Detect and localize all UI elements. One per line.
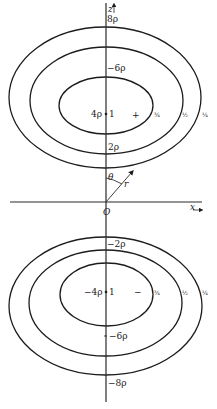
origin-label: O — [103, 207, 111, 217]
upper-lobe — [9, 27, 201, 168]
theta-label: θ — [108, 172, 114, 182]
lower-contour-label-middle: ½ — [182, 289, 188, 296]
tick-minus-6rho: −6ρ — [109, 331, 128, 341]
upper-contour-label-inner: ¾ — [154, 111, 160, 118]
tick-4rho: 4ρ — [91, 109, 102, 119]
tick-minus-8rho: −8ρ — [108, 378, 127, 388]
tick-6rho: −6ρ — [107, 63, 126, 73]
lower-contour-label-inner: ¾ — [154, 289, 160, 296]
lower-contour-label-outer: ¼ — [202, 289, 208, 296]
tick-2rho: 2ρ — [108, 142, 119, 152]
z-axis-label: z — [107, 4, 113, 14]
r-label: r — [124, 179, 129, 189]
upper-center-dot — [105, 113, 108, 116]
upper-contour-outer — [9, 27, 201, 168]
tick-minus-4rho: −4ρ — [84, 287, 103, 297]
dipole-contour-diagram: z x O θ r 8ρ −6ρ 4ρ 2ρ 1 + ¾ ½ ¼ −2ρ −4ρ… — [0, 0, 217, 409]
upper-sign-plus: + — [132, 110, 140, 120]
lower-center-value: 1 — [109, 287, 115, 297]
lower-sign-minus: − — [134, 287, 142, 297]
upper-contour-label-outer: ¼ — [202, 111, 208, 118]
tick-minus-2rho: −2ρ — [107, 239, 126, 249]
lower-center-dot — [105, 291, 108, 294]
x-axis-label: x — [190, 202, 195, 212]
upper-center-value: 1 — [109, 109, 115, 119]
upper-contour-label-middle: ½ — [182, 111, 188, 118]
tick-8rho: 8ρ — [107, 14, 118, 24]
